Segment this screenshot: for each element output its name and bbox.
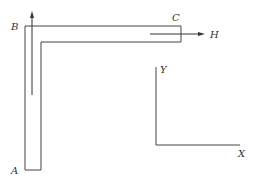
label-a: A bbox=[10, 165, 18, 176]
coordinate-axes bbox=[156, 67, 240, 145]
label-h: H bbox=[209, 29, 219, 40]
label-b: B bbox=[10, 21, 18, 32]
label-y-axis: Y bbox=[160, 64, 168, 75]
vertical-flow-arrow bbox=[30, 11, 34, 95]
l-shaped-bar bbox=[25, 26, 181, 170]
diagram-canvas: B A C H Y X bbox=[0, 0, 259, 180]
horizontal-flow-arrow bbox=[150, 32, 205, 36]
label-x-axis: X bbox=[237, 148, 246, 159]
label-c: C bbox=[172, 12, 180, 23]
